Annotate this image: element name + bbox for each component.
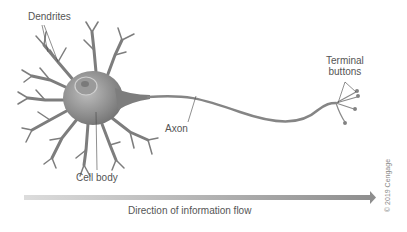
cell-body-label: Cell body (76, 172, 118, 183)
terminal-label-line2: buttons (326, 66, 364, 77)
flow-label: Direction of information flow (128, 205, 251, 216)
neuron-diagram (0, 0, 407, 232)
terminal-label-line1: Terminal (326, 55, 364, 66)
axon-label: Axon (165, 123, 188, 134)
terminal-buttons-label: Terminal buttons (326, 55, 364, 77)
axon (148, 96, 336, 121)
terminal-buttons (336, 90, 359, 125)
flow-arrow (24, 191, 376, 204)
dendrites-label: Dendrites (28, 11, 71, 22)
copyright-label: © 2019 Cengage (384, 159, 391, 212)
